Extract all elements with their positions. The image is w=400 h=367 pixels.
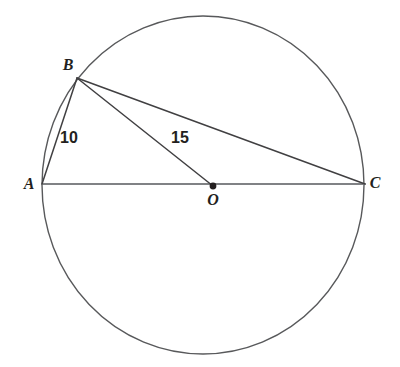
geometry-figure-svg: Circle with inscribed right triangle ABC… (0, 0, 400, 367)
center-point-dot-O (210, 183, 217, 190)
segment-BC-chord (77, 78, 365, 184)
vertex-label-B: B (63, 57, 74, 73)
segment-BO-radius (77, 78, 213, 186)
length-label-AB: 10 (60, 130, 78, 146)
vertex-label-C: C (370, 175, 381, 191)
geometry-diagram-canvas: Circle with inscribed right triangle ABC… (0, 0, 400, 367)
vertex-label-A: A (24, 176, 35, 192)
center-label-O: O (207, 192, 219, 208)
length-label-BO: 15 (171, 130, 189, 146)
